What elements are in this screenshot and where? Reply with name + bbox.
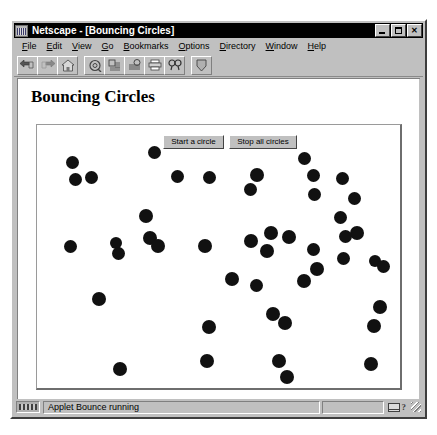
bouncing-circle [350,226,364,240]
bouncing-circle [339,230,352,243]
page-title: Bouncing Circles [31,87,155,107]
bouncing-circle [112,247,125,260]
bouncing-circle [151,239,165,253]
bouncing-circle [69,173,82,186]
bouncing-circle [250,168,264,182]
bouncing-circle [148,146,161,159]
menu-bar: File Edit View Go Bookmarks Options Dire… [14,39,423,54]
status-bar: Applet Bounce running ? [14,399,423,415]
bouncing-circle [373,300,387,314]
progress-indicator [322,401,384,414]
bouncing-circle [272,354,286,368]
menu-item-file[interactable]: File [17,40,42,53]
open-icon[interactable] [124,56,145,75]
bouncing-circle [200,354,214,368]
menu-label-help: elp [314,41,326,51]
bouncing-circle [336,172,349,185]
bouncing-circle [348,192,361,205]
toolbar-group-navigation [17,56,77,75]
java-applet-frame: Start a circle Stop all circles [36,124,402,390]
menu-item-window[interactable]: Window [261,40,303,53]
question-mark-icon[interactable]: ? [402,402,407,412]
menu-item-options[interactable]: Options [173,40,214,53]
title-bar[interactable]: Netscape - [Bouncing Circles] ✕ [14,23,423,38]
bouncing-circle [307,243,320,256]
window-controls: ✕ [375,24,422,37]
menu-item-edit[interactable]: Edit [42,40,68,53]
bouncing-circle [278,316,292,330]
bouncing-circle [307,169,320,182]
menu-label-window: indow [274,41,298,51]
page-right-gutter [419,79,420,400]
mail-icon[interactable] [388,403,400,412]
bouncing-circle [244,183,257,196]
resize-grip[interactable] [411,402,421,412]
bouncing-circle [334,211,347,224]
bouncing-circle [308,188,321,201]
bouncing-circle [203,171,216,184]
bouncing-circle [298,152,311,165]
bouncing-circle [280,370,294,384]
menu-label-directory: irectory [226,41,256,51]
find-icon[interactable] [164,56,185,75]
browser-content-area: Bouncing Circles Start a circle Stop all… [17,78,420,400]
menu-item-view[interactable]: View [67,40,96,53]
toolbar-group-security [191,56,211,75]
bouncing-circle [377,260,390,273]
stop-all-circles-button[interactable]: Stop all circles [229,135,297,149]
bouncing-circle [297,274,311,288]
bouncing-circle [66,156,79,169]
bouncing-circle [202,320,216,334]
bouncing-circle [139,209,153,223]
home-icon[interactable] [57,56,78,75]
menu-label-file: ile [28,41,37,51]
bouncing-circle [64,240,77,253]
bouncing-circle [367,319,381,333]
applet-canvas[interactable]: Start a circle Stop all circles [39,127,398,386]
back-icon[interactable] [17,56,38,75]
bouncing-circle [198,239,212,253]
netscape-status-icon [16,401,40,413]
status-message: Applet Bounce running [43,401,320,414]
reload-icon[interactable] [84,56,105,75]
bouncing-circle [364,357,378,371]
menu-label-go: o [108,41,113,51]
maximize-button[interactable] [391,24,406,37]
toolbar-group-actions [84,56,184,75]
bouncing-circle [225,272,239,286]
bouncing-circle [244,234,258,248]
forward-icon[interactable] [37,56,58,75]
menu-item-bookmarks[interactable]: Bookmarks [118,40,173,53]
bouncing-circle [113,362,127,376]
netscape-app-icon [15,25,28,37]
menu-item-directory[interactable]: Directory [215,40,261,53]
bouncing-circle [250,279,263,292]
menu-item-go[interactable]: Go [96,40,118,53]
bouncing-circle [282,230,296,244]
images-icon[interactable] [104,56,125,75]
menu-label-options: ptions [185,41,209,51]
start-a-circle-button[interactable]: Start a circle [163,135,224,149]
bouncing-circle [85,171,98,184]
status-tray: ? [388,402,409,412]
bouncing-circle [92,292,106,306]
minimize-button[interactable] [375,24,390,37]
netscape-window: Netscape - [Bouncing Circles] ✕ File Edi… [10,19,427,419]
bouncing-circle [337,252,350,265]
menu-item-help[interactable]: Help [303,40,332,53]
bouncing-circle [264,226,278,240]
menu-label-view: iew [78,41,92,51]
bouncing-circle [310,262,324,276]
window-title: Netscape - [Bouncing Circles] [32,25,375,36]
stop-icon[interactable] [191,56,212,75]
bouncing-circle [171,170,184,183]
toolbar [14,54,423,77]
menu-label-bookmarks: ookmarks [129,41,168,51]
menu-label-edit: dit [53,41,63,51]
close-button[interactable]: ✕ [407,24,422,37]
bouncing-circle [260,244,274,258]
print-icon[interactable] [144,56,165,75]
